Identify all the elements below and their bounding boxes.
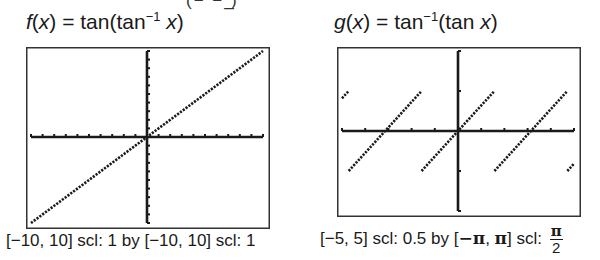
rhs-pre: tan(tan — [80, 10, 145, 33]
rhs-post: ) — [177, 10, 184, 33]
caption-part2: ] scl: — [507, 229, 547, 248]
rhs-var: x — [161, 10, 177, 33]
caption-part1: [−5, 5] scl: 0.5 by [ — [320, 229, 458, 248]
right-graph-title: g(x) = tan−1(tan x) — [334, 10, 498, 34]
pi-over-two-fraction: π2 — [550, 224, 563, 255]
right-graph-canvas — [337, 47, 581, 217]
left-graph-title: f(x) = tan(tan−1 x) — [26, 10, 184, 34]
left-graph-caption: [−10, 10] scl: 1 by [−10, 10] scl: 1 — [6, 231, 255, 251]
left-graph-canvas — [26, 47, 270, 229]
inverse-superscript: −1 — [423, 9, 438, 24]
left-graph-window — [26, 47, 270, 229]
rhs-var: x — [480, 10, 491, 33]
function-var: x — [39, 10, 50, 33]
inverse-superscript: −1 — [146, 9, 161, 24]
function-var: x — [353, 10, 364, 33]
function-name: f — [26, 10, 32, 33]
right-graph-caption: [−5, 5] scl: 0.5 by [−π, π] scl: π2 — [320, 224, 563, 255]
rhs-post: ) — [491, 10, 498, 33]
pi: π — [495, 228, 507, 248]
rhs-pre: tan — [394, 10, 423, 33]
equals-sign: = — [370, 10, 394, 33]
equals-sign: = — [56, 10, 80, 33]
fraction-denominator: 2 — [550, 240, 563, 255]
clipped-top-text: (− − ̲) — [186, 0, 239, 11]
neg-pi: −π — [458, 228, 485, 248]
caption-comma: , — [485, 229, 494, 248]
fraction-numerator: π — [550, 224, 563, 240]
right-graph-window — [337, 47, 581, 217]
rhs-mid: (tan — [438, 10, 480, 33]
function-name: g — [334, 10, 346, 33]
